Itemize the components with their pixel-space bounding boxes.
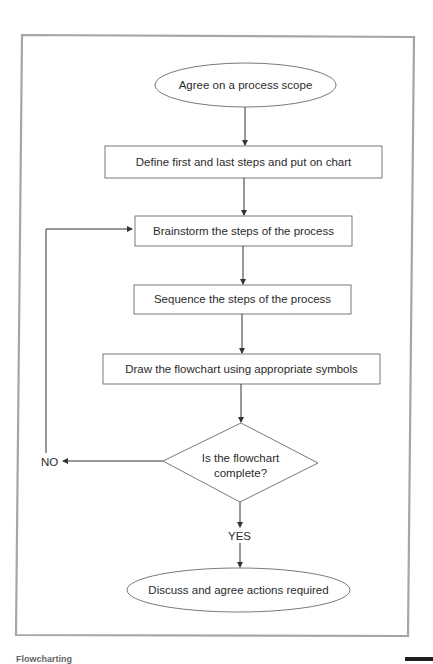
- page-tab-marker: [405, 657, 433, 661]
- decision-label-line2: complete?: [163, 466, 318, 480]
- define-steps-label: Define first and last steps and put on c…: [105, 155, 382, 169]
- start-terminal-label: Agree on a process scope: [155, 78, 336, 92]
- end-terminal-label: Discuss and agree actions required: [127, 583, 350, 597]
- brainstorm-steps-label: Brainstorm the steps of the process: [135, 224, 352, 238]
- yes-branch-label: YES: [228, 529, 251, 543]
- figure-caption: Flowcharting: [16, 654, 72, 664]
- draw-flowchart-label: Draw the flowchart using appropriate sym…: [103, 362, 380, 376]
- loop-back-to-brainstorm: [46, 229, 132, 453]
- decision-label-line1: Is the flowchart: [163, 451, 318, 465]
- diagram-frame: [16, 35, 414, 636]
- sequence-steps-label: Sequence the steps of the process: [134, 292, 351, 306]
- no-branch-label: NO: [41, 455, 58, 469]
